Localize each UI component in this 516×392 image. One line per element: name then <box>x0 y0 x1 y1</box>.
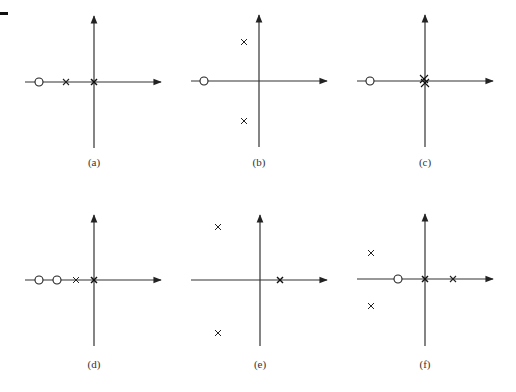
zero-marker <box>35 276 43 284</box>
pole-marker-lower <box>241 118 247 124</box>
caption-b: (b) <box>253 156 266 168</box>
panel-b <box>191 15 327 147</box>
caption-f: (f) <box>420 358 431 370</box>
caption-e: (e) <box>254 358 266 370</box>
zero-marker <box>35 78 43 86</box>
pole-zero-figure: (a) (b) (c) (d) (e) (f) <box>0 0 516 392</box>
caption-a: (a) <box>88 156 100 168</box>
pole-marker-lower <box>368 303 374 309</box>
pole-marker-upper <box>368 250 374 256</box>
caption-d: (d) <box>88 358 101 370</box>
pole-marker-upper <box>215 224 221 230</box>
zero-marker <box>53 276 61 284</box>
pole-zero-plots <box>0 0 516 392</box>
panel-e <box>191 215 327 346</box>
zero-marker <box>394 275 402 283</box>
caption-c: (c) <box>419 156 431 168</box>
panel-c <box>357 15 493 147</box>
panel-d <box>25 215 161 346</box>
zero-marker <box>366 77 374 85</box>
panel-f <box>357 214 493 346</box>
pole-marker-lower <box>215 330 221 336</box>
zero-marker <box>200 77 208 85</box>
panel-a <box>25 16 161 148</box>
pole-marker-upper <box>241 39 247 45</box>
